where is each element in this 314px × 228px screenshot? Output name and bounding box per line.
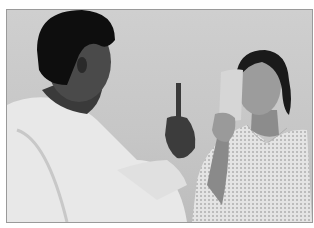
doctor-coat: [7, 97, 187, 222]
scene-illustration: [7, 10, 312, 222]
doctor-hand: [165, 116, 195, 158]
eye-exam-photo: [6, 9, 313, 223]
